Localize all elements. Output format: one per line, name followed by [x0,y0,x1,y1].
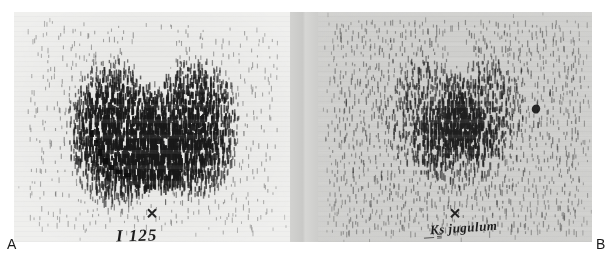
panel-gutter [290,12,318,242]
annotation-ks-jugulum-mark: — ≡ [424,231,443,243]
scan-panel-b [318,12,592,242]
scan-image-a [14,12,290,242]
panel-letter-a: A [7,236,16,252]
panel-letter-b: B [596,236,605,252]
scan-panel-a [14,12,290,242]
scan-image-b [318,12,592,242]
scintigram-figure: I 125 Ks jugulum — ≡ A B [0,0,614,258]
annotation-tracer-i125: I 125 [116,225,158,246]
